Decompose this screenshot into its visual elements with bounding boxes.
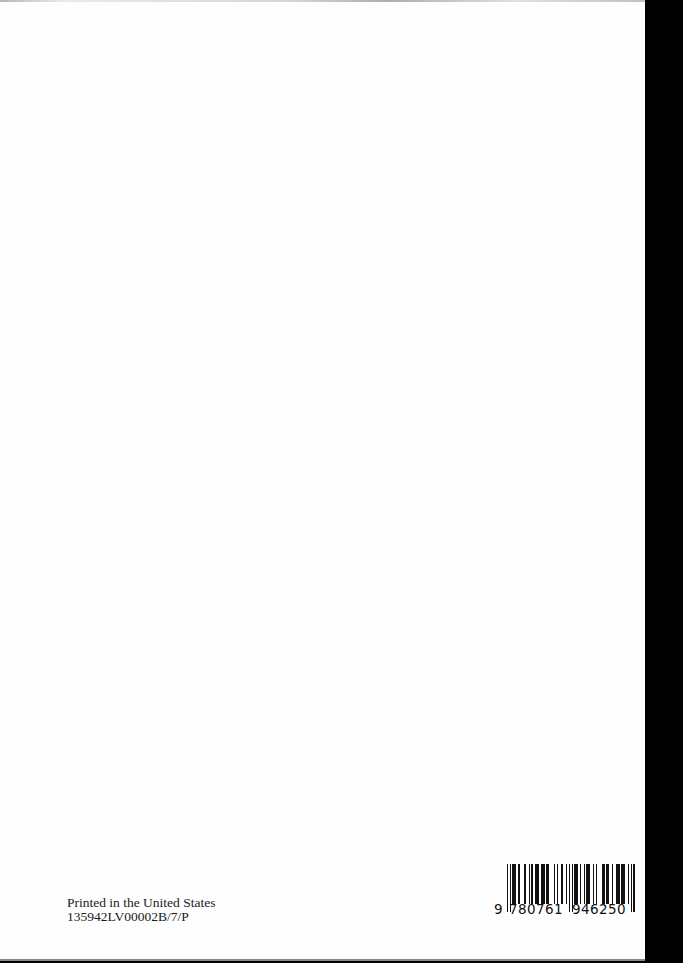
imprint-line-code: 135942LV00002B/7/P (67, 910, 215, 924)
printer-imprint: Printed in the United States 135942LV000… (67, 896, 215, 924)
barcode-left-group: 780761 (509, 901, 563, 917)
top-edge-shadow (0, 0, 645, 2)
barcode-bar (633, 864, 634, 912)
imprint-line-country: Printed in the United States (67, 896, 215, 910)
barcode-right-group: 946250 (572, 901, 626, 917)
isbn-barcode: 9 780761 946250 (494, 864, 644, 920)
back-cover-page: Printed in the United States 135942LV000… (0, 0, 645, 961)
barcode-lead-digit: 9 (494, 901, 503, 917)
bottom-edge-shadow (0, 959, 645, 961)
